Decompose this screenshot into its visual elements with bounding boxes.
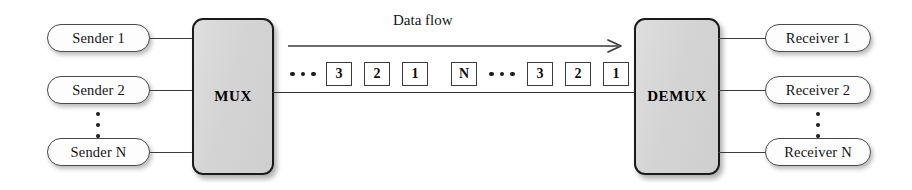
data-cell: 2 xyxy=(565,62,591,86)
receiver-node-2-label: Receiver 2 xyxy=(786,82,850,99)
data-cell: 3 xyxy=(326,62,352,86)
transmission-medium-line xyxy=(272,92,636,93)
sender-1-connector xyxy=(148,38,194,39)
sender-n-connector xyxy=(148,152,194,153)
data-cell-value: 2 xyxy=(374,66,381,82)
data-cell-value: 3 xyxy=(336,66,343,82)
receiver-node-n[interactable]: Receiver N xyxy=(765,138,871,166)
data-cell: 2 xyxy=(364,62,390,86)
receiver-node-n-label: Receiver N xyxy=(784,144,852,161)
sender-node-1[interactable]: Sender 1 xyxy=(47,24,150,52)
data-cell: 1 xyxy=(402,62,428,86)
receiver-1-connector xyxy=(718,38,768,39)
data-stream-ellipsis-right-icon xyxy=(489,62,515,86)
demux-label: DEMUX xyxy=(647,88,707,105)
data-cell-value: 1 xyxy=(412,66,419,82)
data-cell-value: 1 xyxy=(613,66,620,82)
data-cell-value: N xyxy=(459,66,469,82)
data-flow-label: Data flow xyxy=(393,12,453,29)
sender-vertical-ellipsis-icon xyxy=(96,112,100,138)
sender-node-n-label: Sender N xyxy=(71,144,127,161)
sender-node-2[interactable]: Sender 2 xyxy=(47,76,150,104)
receiver-2-connector xyxy=(718,90,768,91)
receiver-node-1[interactable]: Receiver 1 xyxy=(765,24,871,52)
data-cell: N xyxy=(451,62,477,86)
data-flow-arrow-icon xyxy=(288,36,628,56)
receiver-node-2[interactable]: Receiver 2 xyxy=(765,76,871,104)
data-stream-ellipsis-left-icon xyxy=(290,62,316,86)
data-cell-value: 3 xyxy=(537,66,544,82)
sender-node-1-label: Sender 1 xyxy=(72,30,125,47)
sender-node-n[interactable]: Sender N xyxy=(47,138,150,166)
mux-label: MUX xyxy=(214,88,252,105)
demux-block[interactable]: DEMUX xyxy=(634,18,720,175)
mux-demux-diagram: Sender 1 Sender 2 Sender N MUX Data flow… xyxy=(0,0,912,190)
receiver-vertical-ellipsis-icon xyxy=(816,112,820,138)
sender-2-connector xyxy=(148,90,194,91)
data-cell-value: 2 xyxy=(575,66,582,82)
receiver-n-connector xyxy=(718,152,768,153)
data-cell: 1 xyxy=(603,62,629,86)
data-cell: 3 xyxy=(527,62,553,86)
mux-block[interactable]: MUX xyxy=(192,18,274,175)
receiver-node-1-label: Receiver 1 xyxy=(786,30,850,47)
sender-node-2-label: Sender 2 xyxy=(72,82,125,99)
